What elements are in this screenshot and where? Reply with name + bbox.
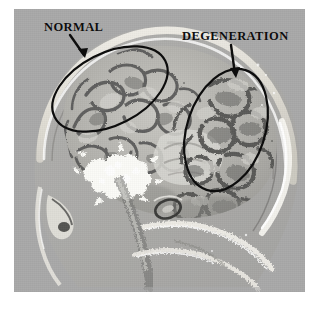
brain-section-image (14, 9, 305, 292)
annotation-label-degeneration: DEGENERATION (182, 30, 289, 43)
brain-section-graphic (14, 9, 305, 292)
figure-root: NORMAL DEGENERATION (0, 0, 321, 309)
annotation-label-normal: NORMAL (44, 21, 103, 34)
